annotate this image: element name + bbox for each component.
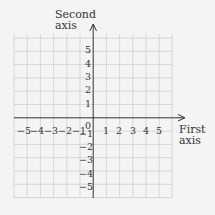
- y-tick: −5: [79, 181, 93, 192]
- x-tick: 5: [156, 125, 162, 136]
- y-tick: 2: [85, 84, 91, 95]
- y-tick: 4: [85, 58, 91, 69]
- y-tick: −2: [79, 141, 93, 152]
- y-tick: −3: [79, 154, 93, 165]
- x-tick: 2: [116, 125, 122, 136]
- coordinate-grid: [0, 0, 215, 215]
- y-tick: −4: [79, 168, 93, 179]
- y-tick: 3: [85, 71, 91, 82]
- x-axis-title-line2: axis: [179, 135, 205, 146]
- x-tick: −4: [30, 125, 44, 136]
- x-tick: −2: [58, 125, 72, 136]
- x-tick: 3: [130, 125, 136, 136]
- y-tick: 5: [85, 44, 91, 55]
- x-tick: 4: [143, 125, 149, 136]
- y-axis-title: Second axis: [55, 9, 96, 31]
- x-tick: −5: [17, 125, 31, 136]
- x-tick: −3: [44, 125, 58, 136]
- x-tick: 1: [103, 125, 109, 136]
- y-tick: 1: [85, 98, 91, 109]
- y-axis-title-line2: axis: [55, 20, 96, 31]
- x-axis-title: First axis: [179, 124, 205, 146]
- y-tick: −1: [79, 128, 93, 139]
